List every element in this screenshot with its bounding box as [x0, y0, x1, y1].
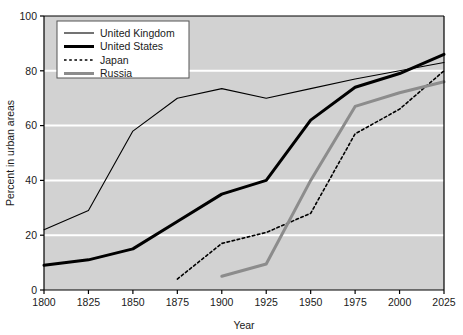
x-tick-label-1950: 1950 — [299, 296, 323, 308]
y-axis-title: Percent in urban areas — [4, 100, 16, 206]
y-tick-label-20: 20 — [25, 229, 37, 241]
y-tick-label-0: 0 — [31, 284, 37, 296]
legend: United KingdomUnited StatesJapanRussia — [57, 21, 189, 79]
y-tick-label-60: 60 — [25, 119, 37, 131]
x-tick-label-1850: 1850 — [121, 296, 145, 308]
x-tick-label-1800: 1800 — [32, 296, 56, 308]
x-tick-label-1975: 1975 — [343, 296, 367, 308]
y-tick-label-80: 80 — [25, 65, 37, 77]
y-tick-label-100: 100 — [19, 10, 37, 22]
legend-label-russia: Russia — [100, 67, 132, 79]
x-tick-label-2025: 2025 — [432, 296, 456, 308]
chart-container: 020406080100 180018251850187519001925195… — [0, 0, 463, 335]
y-tick-label-40: 40 — [25, 174, 37, 186]
x-tick-label-1900: 1900 — [210, 296, 234, 308]
line-chart: 020406080100 180018251850187519001925195… — [0, 0, 463, 335]
legend-label-japan: Japan — [100, 54, 129, 66]
y-axis-ticks: 020406080100 — [19, 10, 44, 296]
x-tick-label-1875: 1875 — [166, 296, 190, 308]
legend-label-united-states: United States — [100, 40, 163, 52]
x-tick-label-1925: 1925 — [255, 296, 279, 308]
legend-label-united-kingdom: United Kingdom — [100, 27, 175, 39]
x-axis-ticks: 1800182518501875190019251950197520002025 — [32, 290, 456, 308]
x-tick-label-2000: 2000 — [388, 296, 412, 308]
x-axis-title: Year — [233, 319, 255, 331]
x-tick-label-1825: 1825 — [77, 296, 101, 308]
